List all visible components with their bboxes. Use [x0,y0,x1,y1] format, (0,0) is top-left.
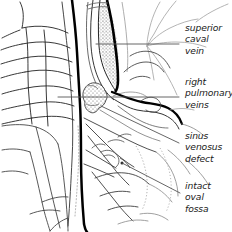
label-line-2: caval [185,33,222,44]
label-line-3: vein [185,45,222,56]
label-line-3: fossa [185,203,211,214]
label-line-1: superior [185,22,222,33]
label-line-2: venosus [185,141,222,152]
label-intact-oval-fossa: intact oval fossa [185,180,211,214]
label-line-3: defect [185,153,222,164]
label-right-pulmonary-veins: right pulmonary veins [185,76,232,110]
label-sinus-venosus-defect: sinus venosus defect [185,130,222,164]
anatomical-figure: superior caval vein right pulmonary vein… [0,0,232,232]
label-line-3: veins [185,99,232,110]
label-line-2: pulmonary [185,87,232,98]
label-superior-caval-vein: superior caval vein [185,22,222,56]
label-line-1: right [185,76,232,87]
label-line-1: sinus [185,130,222,141]
label-line-2: oval [185,191,211,202]
label-line-1: intact [185,180,211,191]
